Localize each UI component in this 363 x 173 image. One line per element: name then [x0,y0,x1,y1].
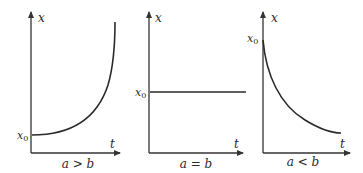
x0-label: x0 [247,32,258,46]
panel-constant: x t x0 a = b [135,11,246,171]
y-axis-label: x [38,11,45,25]
x-axis-label: t [340,137,345,151]
x0-label: x0 [135,86,146,100]
diagram-canvas: x t x0 a > b x t x0 a = b x t x0 a < b [0,0,363,173]
x-axis-label: t [110,137,115,151]
x-axis-label: t [234,137,239,151]
panel-decay: x t x0 a < b [247,11,350,169]
panel-growth: x t x0 a > b [17,11,120,171]
y-axis-label: x [271,11,278,25]
y-axis-label: x [155,11,162,25]
decay-curve [263,40,341,133]
x0-label: x0 [17,129,28,143]
condition-label: a < b [287,155,320,169]
condition-label: a = b [180,157,213,171]
condition-label: a > b [62,157,95,171]
growth-curve [32,22,115,135]
